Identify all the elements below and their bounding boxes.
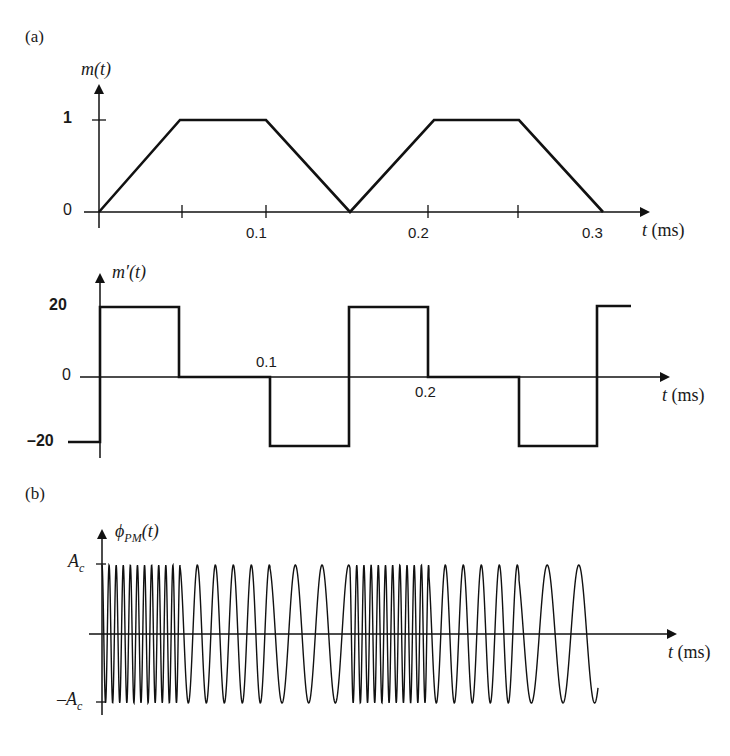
m-ytick-1: 1 [63,109,72,127]
m-prime-ytick-20: 20 [49,296,67,314]
pm-axis-label: ϕPM(t) [115,521,159,546]
m-prime-ytick-0: 0 [62,366,71,384]
m-xtick-01: 0.1 [246,224,267,241]
m-trapezoid-line [99,120,603,212]
m-axis-label: m(t) [81,59,111,80]
figure-canvas [0,0,730,756]
m-xtick-02: 0.2 [408,224,429,241]
m-xtick-03: 0.3 [582,224,603,241]
m-prime-xtick-02: 0.2 [415,383,436,400]
pm-ytick-mac: –Ac [57,689,82,714]
pm-t-axis-label: t (ms) [668,642,711,663]
m-prime-axis-label: m′(t) [112,262,146,283]
m-prime-ytick-m20: –20 [27,432,54,450]
m-prime-step-line [68,306,631,446]
m-t-axis-label: t (ms) [642,220,685,241]
pm-ytick-ac: Ac [68,551,84,576]
m-ytick-0: 0 [63,201,72,219]
m-prime-xtick-01: 0.1 [256,353,277,370]
m-prime-plot [68,275,668,458]
m-prime-t-axis-label: t (ms) [662,385,705,406]
pm-plot [89,531,675,715]
m-plot [84,86,648,228]
